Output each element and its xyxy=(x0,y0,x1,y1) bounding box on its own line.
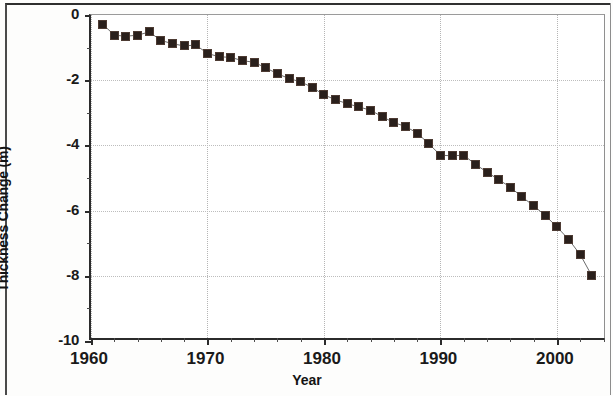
data-point-marker xyxy=(389,118,398,127)
data-point-marker xyxy=(250,58,259,67)
plot-area xyxy=(89,14,605,340)
x-axis-tick-label: 1960 xyxy=(49,349,129,369)
data-point-marker xyxy=(319,90,328,99)
x-axis-tick-label: 1990 xyxy=(398,349,478,369)
data-point-marker xyxy=(261,63,270,72)
x-axis-tick-label: 1980 xyxy=(282,349,362,369)
data-point-marker xyxy=(180,41,189,50)
data-point-marker xyxy=(191,40,200,49)
data-point-marker xyxy=(401,122,410,131)
data-point-marker xyxy=(226,53,235,62)
data-point-marker xyxy=(483,168,492,177)
data-point-marker xyxy=(564,235,573,244)
data-point-marker xyxy=(378,112,387,121)
data-point-marker xyxy=(133,31,142,40)
data-point-marker xyxy=(98,20,107,29)
data-point-marker xyxy=(541,211,550,220)
y-axis-tick-label: -2 xyxy=(19,70,79,87)
x-axis-tick-label: 1970 xyxy=(165,349,245,369)
figure-border-right xyxy=(610,3,611,395)
data-point-marker xyxy=(203,49,212,58)
y-axis-tick xyxy=(85,341,91,343)
data-point-marker xyxy=(343,99,352,108)
data-point-marker xyxy=(156,36,165,45)
y-axis-tick-label: 0 xyxy=(19,5,79,22)
data-point-marker xyxy=(285,74,294,83)
series-markers xyxy=(91,15,607,341)
data-point-marker xyxy=(424,139,433,148)
data-point-marker xyxy=(436,151,445,160)
y-axis-tick-label: -4 xyxy=(19,135,79,152)
data-point-marker xyxy=(110,31,119,40)
data-point-marker xyxy=(354,102,363,111)
data-point-marker xyxy=(459,151,468,160)
chart-figure: Cumulative Thickness Change (m) Year 0-2… xyxy=(0,0,613,396)
y-axis-tick-label: -8 xyxy=(19,266,79,283)
data-point-marker xyxy=(576,250,585,259)
data-point-marker xyxy=(121,32,130,41)
data-point-marker xyxy=(145,27,154,36)
x-axis-tick-label: 2000 xyxy=(515,349,595,369)
y-axis-tick-label: -10 xyxy=(19,331,79,348)
data-point-marker xyxy=(587,271,596,280)
data-point-marker xyxy=(238,56,247,65)
data-point-marker xyxy=(413,129,422,138)
data-point-marker xyxy=(448,151,457,160)
data-point-marker xyxy=(366,106,375,115)
data-point-marker xyxy=(471,160,480,169)
data-point-marker xyxy=(494,175,503,184)
data-point-marker xyxy=(529,201,538,210)
x-axis-title: Year xyxy=(247,372,367,388)
data-point-marker xyxy=(506,183,515,192)
data-point-marker xyxy=(296,77,305,86)
data-point-marker xyxy=(517,192,526,201)
data-point-marker xyxy=(308,83,317,92)
data-point-marker xyxy=(215,52,224,61)
data-point-marker xyxy=(168,39,177,48)
data-point-marker xyxy=(331,95,340,104)
y-axis-tick-label: -6 xyxy=(19,201,79,218)
data-point-marker xyxy=(552,222,561,231)
data-point-marker xyxy=(273,69,282,78)
y-axis-title-line2: Thickness Change (m) xyxy=(0,104,12,334)
y-axis-title: Cumulative Thickness Change (m) xyxy=(0,104,12,334)
